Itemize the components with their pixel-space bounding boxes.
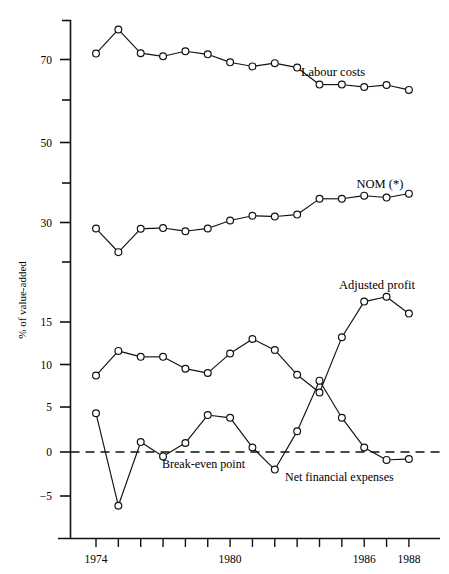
data-point-1979 [204,412,211,419]
segment [300,201,316,213]
segment [211,56,227,62]
segment [390,459,405,460]
x-tick-label-1974: 1974 [85,553,108,565]
data-point-1981 [249,212,256,219]
y-tick-label-10: 10 [41,359,53,371]
annotation-break-even-point: Break-even point [162,457,246,471]
x-tick-label-1988: 1988 [397,553,420,565]
data-point-1986 [361,298,368,305]
segment [344,305,363,335]
data-point-1980 [227,59,234,66]
segment [321,384,340,415]
segment [234,217,249,220]
segment [367,449,383,458]
x-axis-ticks: 1974198019861988 [85,539,421,566]
series-label-net-financial-expenses: Net financial expenses [285,470,394,484]
data-point-1987 [383,194,390,201]
data-series-group [93,26,413,509]
data-point-1976 [137,225,144,232]
series-labour-costs [93,26,413,93]
data-point-1979 [204,225,211,232]
y-tick-label-15: 15 [41,316,53,328]
y-tick-label-5: 5 [46,401,52,413]
data-point-1988 [406,456,413,463]
segment [344,421,362,445]
series-label-adjusted-profit: Adjusted profit [339,278,416,292]
data-point-1976 [137,50,144,57]
data-point-1977 [160,353,167,360]
x-tick-label-1980: 1980 [219,553,242,565]
data-point-1983 [294,64,301,71]
y-tick-label-70: 70 [41,54,53,66]
data-point-1975 [115,502,122,509]
y-tick-label-30: 30 [41,217,53,229]
data-point-1982 [271,347,278,354]
data-point-1976 [137,353,144,360]
segment [256,341,272,349]
segment [278,64,293,67]
series-net-financial-expenses [93,377,413,509]
segment [167,52,182,56]
data-point-1985 [338,334,345,341]
segment [144,54,159,56]
segment [390,86,405,89]
segment [98,231,115,249]
data-point-1987 [383,457,390,464]
data-point-1985 [338,414,345,421]
segment [256,64,271,66]
data-point-1988 [406,190,413,197]
segment [98,354,116,373]
data-point-1975 [115,249,122,256]
segment [189,229,204,231]
segment [98,32,115,51]
data-point-1977 [160,225,167,232]
segment [234,63,249,66]
segment [368,298,383,301]
data-point-1987 [383,293,390,300]
segment [211,222,227,228]
data-point-1974 [93,50,100,57]
segment [300,377,317,390]
data-point-1986 [361,192,368,199]
segment [211,416,226,418]
segment [210,356,227,371]
y-tick-label-0: 0 [46,446,52,458]
x-tick-label-1986: 1986 [353,553,376,565]
y-axis-title: % of value-added [16,261,28,339]
segment [97,417,118,502]
series-label-nom: NOM (*) [357,177,404,191]
data-point-1984 [316,389,323,396]
data-point-1985 [338,81,345,88]
segment [278,215,293,216]
y-axis-ticks: 705030151050−5 [40,54,71,503]
segment [166,445,182,455]
series-adjusted-profit [93,293,413,396]
data-point-1980 [227,217,234,224]
data-point-1974 [93,372,100,379]
data-point-1977 [160,53,167,60]
segment [189,369,204,372]
segment [277,353,295,372]
data-point-1975 [115,26,122,33]
segment [345,85,360,87]
data-point-1985 [338,195,345,202]
segment [121,231,138,249]
segment [121,32,138,50]
y-tick-label--5: −5 [40,490,52,502]
data-point-1978 [182,440,189,447]
segment [232,421,250,445]
data-point-1986 [361,444,368,451]
segment [277,434,296,466]
data-point-1984 [316,81,323,88]
data-point-1980 [227,350,234,357]
data-point-1984 [316,195,323,202]
data-point-1978 [182,48,189,55]
data-point-1987 [383,82,390,89]
data-point-1981 [249,336,256,343]
data-point-1982 [271,466,278,473]
line-chart: 705030151050−5 1974198019861988 % of val… [0,0,449,574]
segment [144,228,159,229]
data-point-1983 [294,371,301,378]
data-point-1978 [182,365,189,372]
segment [189,52,204,54]
